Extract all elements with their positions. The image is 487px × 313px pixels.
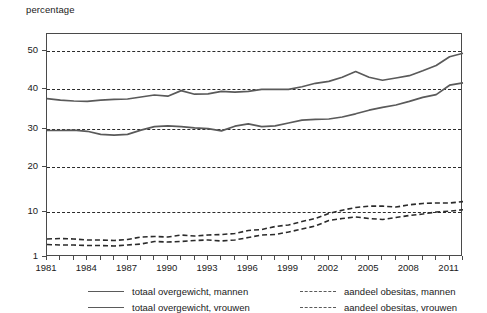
x-tick-mark-2007: [395, 256, 396, 260]
x-tick-label-1984: 1984: [76, 262, 97, 273]
x-tick-mark-1997: [261, 256, 262, 260]
y-tick-mark-30: [42, 128, 47, 129]
legend-item-label: aandeel obesitas, vrouwen: [344, 302, 457, 313]
series-line-3: [47, 202, 463, 241]
legend-item-2[interactable]: aandeel obesitas, mannen: [300, 284, 455, 299]
x-tick-mark-1996: [247, 256, 248, 260]
chart-root: percentage 11020304050 19811984198719901…: [0, 0, 487, 313]
legend-item-label: totaal overgewicht, mannen: [132, 286, 248, 297]
legend-item-label: aandeel obesitas, mannen: [344, 286, 455, 297]
legend-item-3[interactable]: aandeel obesitas, vrouwen: [300, 300, 457, 313]
legend-swatch-dashed-icon: [300, 291, 336, 292]
x-tick-label-1996: 1996: [237, 262, 258, 273]
y-tick-label-40: 40: [12, 82, 38, 93]
x-tick-mark-2006: [381, 256, 382, 260]
legend-item-label: totaal overgewicht, vrouwen: [132, 302, 250, 313]
x-tick-mark-1999: [288, 256, 289, 260]
x-tick-label-1987: 1987: [116, 262, 137, 273]
x-tick-mark-1987: [127, 256, 128, 260]
y-tick-mark-40: [42, 88, 47, 89]
x-tick-mark-2003: [341, 256, 342, 260]
legend-swatch-solid-icon: [88, 307, 124, 308]
y-tick-mark-20: [42, 166, 47, 167]
x-tick-mark-2002: [328, 256, 329, 260]
legend-swatch-solid-icon: [88, 291, 124, 292]
x-tick-mark-2011: [449, 256, 450, 260]
x-tick-mark-2005: [368, 256, 369, 260]
x-tick-label-2002: 2002: [317, 262, 338, 273]
x-tick-mark-1998: [274, 256, 275, 260]
x-tick-mark-1990: [167, 256, 168, 260]
x-tick-mark-2012: [462, 256, 463, 260]
x-tick-label-2008: 2008: [398, 262, 419, 273]
legend-swatch-dashed-icon: [300, 307, 336, 308]
x-tick-mark-2001: [314, 256, 315, 260]
y-tick-mark-50: [42, 50, 47, 51]
y-tick-label-10: 10: [12, 205, 38, 216]
x-tick-label-1993: 1993: [196, 262, 217, 273]
x-tick-mark-2008: [408, 256, 409, 260]
x-tick-mark-2009: [422, 256, 423, 260]
x-tick-mark-1981: [46, 256, 47, 260]
series-line-0: [47, 53, 463, 101]
x-tick-mark-2010: [435, 256, 436, 260]
chart-legend: totaal overgewicht, mannentotaal overgew…: [0, 276, 487, 313]
y-tick-label-1: 1: [12, 250, 38, 261]
x-tick-mark-1984: [86, 256, 87, 260]
plot-area: [46, 33, 462, 256]
x-tick-mark-1994: [220, 256, 221, 260]
y-axis-title: percentage: [26, 4, 75, 15]
legend-item-1[interactable]: totaal overgewicht, vrouwen: [88, 300, 250, 313]
x-tick-mark-2004: [355, 256, 356, 260]
x-tick-mark-1993: [207, 256, 208, 260]
x-tick-label-1981: 1981: [35, 262, 56, 273]
y-tick-label-20: 20: [12, 160, 38, 171]
x-tick-label-1990: 1990: [156, 262, 177, 273]
x-tick-mark-1989: [153, 256, 154, 260]
y-tick-label-30: 30: [12, 122, 38, 133]
x-tick-mark-1985: [100, 256, 101, 260]
y-tick-label-50: 50: [12, 44, 38, 55]
x-tick-mark-1992: [194, 256, 195, 260]
y-tick-mark-10: [42, 211, 47, 212]
x-tick-mark-1982: [59, 256, 60, 260]
series-line-2: [47, 210, 463, 246]
x-tick-mark-2000: [301, 256, 302, 260]
x-tick-mark-1995: [234, 256, 235, 260]
x-tick-label-2005: 2005: [357, 262, 378, 273]
x-tick-mark-1983: [73, 256, 74, 260]
x-tick-mark-1991: [180, 256, 181, 260]
x-tick-mark-1986: [113, 256, 114, 260]
x-tick-mark-1988: [140, 256, 141, 260]
legend-item-0[interactable]: totaal overgewicht, mannen: [88, 284, 248, 299]
series-layer: [47, 34, 463, 257]
x-tick-label-1999: 1999: [277, 262, 298, 273]
x-tick-label-2011: 2011: [438, 262, 458, 273]
